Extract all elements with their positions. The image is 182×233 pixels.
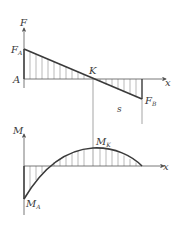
moment-positive-hatch xyxy=(54,148,136,166)
k-label: K xyxy=(88,65,97,76)
bending-moment-diagram: M MK x MA xyxy=(12,125,169,215)
shear-moment-diagram: F FA A K x FB s xyxy=(0,0,182,233)
ma-label: MA xyxy=(25,198,41,210)
origin-a-label: A xyxy=(12,74,20,85)
moment-x-label: x xyxy=(163,161,169,172)
mk-label: MK xyxy=(95,136,111,148)
moment-curve xyxy=(24,148,142,199)
fb-label: FB xyxy=(144,95,157,107)
f-axis-label: F xyxy=(19,17,28,28)
shear-force-diagram: F FA A K x FB s xyxy=(10,17,171,166)
shear-x-label: x xyxy=(165,77,171,88)
s-label: s xyxy=(117,104,122,114)
m-axis-label: M xyxy=(12,125,24,136)
fa-label: FA xyxy=(10,44,23,56)
